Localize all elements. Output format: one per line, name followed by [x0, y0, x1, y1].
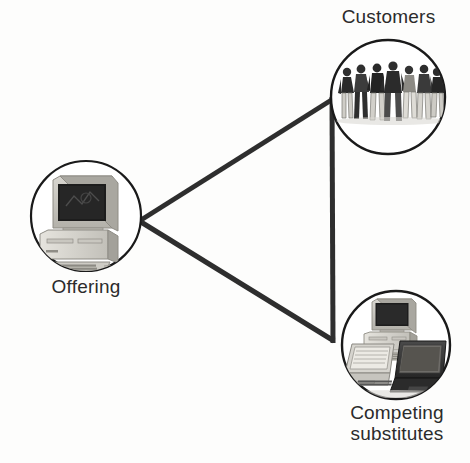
edge-offering-to-competing-substitutes: [141, 222, 334, 341]
node-offering[interactable]: [24, 161, 141, 282]
node-customers[interactable]: [331, 40, 448, 154]
edge-group: [141, 97, 334, 343]
edge-offering-to-customers: [141, 99, 333, 220]
edge-customers-to-competing-substitutes: [332, 97, 333, 343]
node-competing-substitutes[interactable]: [306, 291, 450, 399]
diagram-graphic: [0, 0, 470, 463]
node-label-customers: Customers: [316, 6, 461, 27]
node-label-offering: Offering: [6, 276, 166, 297]
node-label-competing-substitutes: Competing substitutes: [331, 402, 463, 444]
diagram-canvas: Offering Customers Competing substitutes: [0, 0, 470, 463]
laptop-light-icon: [306, 344, 394, 385]
